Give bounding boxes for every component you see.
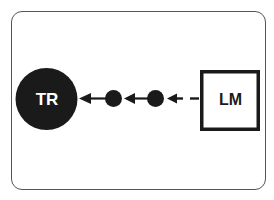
arrowhead-icon bbox=[167, 94, 177, 104]
intermediate-node-1 bbox=[105, 90, 122, 107]
lm-node-label: LM bbox=[201, 92, 260, 108]
intermediate-node-2 bbox=[147, 90, 164, 107]
edge-n1-to-tr bbox=[79, 93, 106, 104]
arrowhead-icon bbox=[79, 93, 91, 104]
edge-lm-to-n2 bbox=[167, 94, 199, 104]
tr-node-label: TR bbox=[16, 91, 78, 108]
arrowhead-icon bbox=[124, 93, 135, 104]
edge-n2-to-n1 bbox=[124, 93, 148, 104]
